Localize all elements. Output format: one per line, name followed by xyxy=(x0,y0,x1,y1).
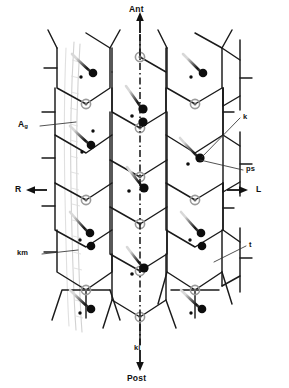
kinocilium-dot xyxy=(139,183,148,192)
kinocilium-dot xyxy=(86,229,95,238)
kinocilium-dot xyxy=(87,242,96,251)
axis-label-left: L xyxy=(256,185,261,194)
callout-label-ag: Ag xyxy=(18,120,28,129)
hair-bundle xyxy=(72,54,97,79)
stereocilium-dot xyxy=(130,114,134,118)
kinocilium-dot xyxy=(87,141,96,150)
callout-label-km: km xyxy=(17,249,28,257)
hair-bundle xyxy=(127,167,149,193)
leader-k xyxy=(202,118,240,157)
stereocilium-dot xyxy=(189,311,192,314)
axis-label-right: R xyxy=(15,185,21,194)
kinocilium-dot xyxy=(195,153,204,162)
stereocilium-dot xyxy=(78,238,81,241)
callout-label-t: t xyxy=(249,241,252,249)
kinocilium-dot xyxy=(197,229,206,238)
stereocilium-dot xyxy=(78,311,81,314)
kinocilium-dot xyxy=(199,69,208,78)
stereocilium-dot xyxy=(189,75,192,78)
kinocilium-dot xyxy=(198,242,207,251)
posterior-arrow-head xyxy=(136,362,144,371)
leader-ps xyxy=(200,160,243,170)
hair-bundle xyxy=(183,54,207,79)
kinocilium-dot xyxy=(139,263,148,272)
figure-canvas: Ant Post ki R L Ag km k ps t xyxy=(0,0,289,388)
axis-label-anterior: Ant xyxy=(129,5,144,14)
leader-t xyxy=(214,246,246,262)
hair-bundle xyxy=(181,212,206,250)
axis-arrows xyxy=(26,12,248,371)
left-arrow-head xyxy=(239,186,248,194)
kinocilium-dot xyxy=(87,305,96,314)
stereocilium-dot xyxy=(186,162,190,166)
callout-ag-sub: g xyxy=(24,123,28,129)
axis-label-posterior: Post xyxy=(127,374,146,383)
stereocilium-dot xyxy=(80,150,83,153)
hair-bundle xyxy=(127,247,149,276)
stereocilium-dot xyxy=(91,129,94,132)
hair-bundle-labeled xyxy=(180,138,205,166)
midline-label-ki: ki xyxy=(134,344,141,352)
hair-bundle xyxy=(126,86,148,127)
callout-label-k: k xyxy=(243,113,247,121)
stereocilium-dot xyxy=(79,75,82,78)
stereocilium-dot xyxy=(188,238,191,241)
kinocilium-dot xyxy=(198,305,207,314)
stereocilium-dot xyxy=(127,189,131,193)
gelatinous-band xyxy=(64,42,82,332)
stereocilium-dot xyxy=(130,272,134,276)
kinocilium-dot xyxy=(89,69,98,78)
callout-label-ps: ps xyxy=(246,165,255,173)
right-arrow-head xyxy=(26,186,35,194)
mosaic-drawing xyxy=(0,0,289,388)
